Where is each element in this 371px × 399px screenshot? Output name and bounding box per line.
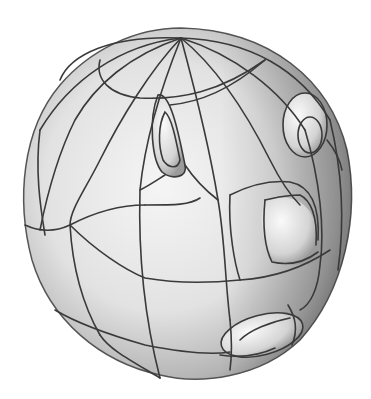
sphere-illustration xyxy=(0,0,371,399)
sphere-figure xyxy=(0,0,371,399)
